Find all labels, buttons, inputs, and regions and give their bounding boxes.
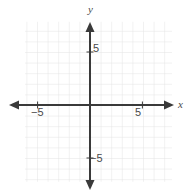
y-axis-label: y — [88, 4, 93, 15]
coordinate-plane-canvas — [0, 0, 187, 195]
y-axis-tick-label-positive-five: 5 — [93, 43, 99, 54]
x-axis-tick-label-negative-five: −5 — [31, 107, 44, 118]
x-axis-left-arrowhead — [9, 101, 19, 110]
x-axis-label: x — [178, 99, 183, 110]
x-axis-tick-label-positive-five: 5 — [135, 107, 141, 118]
y-axis-bottom-arrowhead — [86, 180, 95, 190]
coordinate-plane-figure: −5 5 5 −5 x y — [0, 0, 187, 195]
y-axis-tick-label-negative-five: −5 — [90, 153, 103, 164]
